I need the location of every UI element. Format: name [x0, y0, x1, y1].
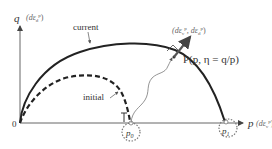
p-axis-label: p: [247, 117, 254, 129]
p1-label: p1: [221, 126, 230, 137]
p0-label: p0: [125, 128, 134, 139]
vector-label: (dεvp, dεdp): [172, 26, 206, 36]
p-axis-unit: (dεvp): [256, 119, 272, 129]
current-pointer: [88, 32, 90, 43]
initial-label: initial: [83, 92, 104, 102]
q-axis-unit: (dεdp): [26, 13, 44, 23]
p0-marker: p0: [122, 121, 140, 141]
origin-label: 0: [12, 119, 17, 129]
current-label: current: [73, 22, 99, 32]
stress-path: [131, 58, 172, 123]
initial-pointer: [110, 92, 118, 98]
yield-surface-diagram: q (dεdp) p (dεvp) 0 current initial p0 p…: [0, 0, 272, 149]
q-axis-label: q: [14, 12, 20, 24]
p1-marker: p1: [219, 119, 237, 137]
state-point-label: P(p, η = q/p): [183, 53, 239, 66]
